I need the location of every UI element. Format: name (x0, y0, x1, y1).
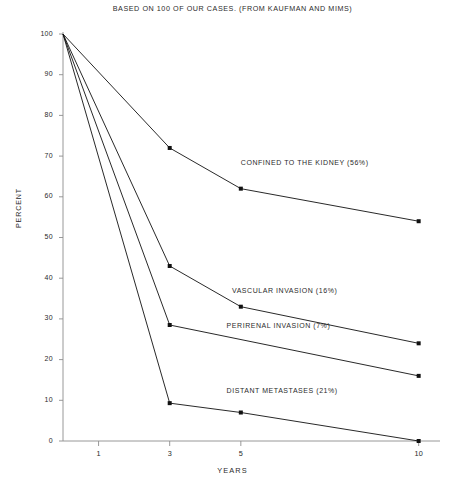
y-axis-tick-label: 80 (27, 111, 53, 118)
y-axis-tick-label: 40 (27, 274, 53, 281)
data-point-marker (168, 323, 172, 327)
y-axis-tick-label: 50 (27, 233, 53, 240)
series-label: PERIRENAL INVASION (7%) (227, 322, 331, 329)
x-axis-tick-label: 3 (159, 449, 181, 458)
data-point-marker (168, 264, 172, 268)
y-axis-tick-label: 20 (27, 355, 53, 362)
data-point-marker (239, 305, 243, 309)
series-label: VASCULAR INVASION (16%) (232, 287, 337, 294)
x-axis-tick-label: 5 (230, 449, 252, 458)
y-axis-tick-label: 0 (27, 437, 53, 444)
y-axis-tick-label: 100 (27, 30, 53, 37)
y-axis-tick-label: 60 (27, 192, 53, 199)
series-line (63, 34, 419, 441)
series-label: CONFINED TO THE KIDNEY (56%) (241, 159, 369, 166)
data-point-marker (239, 187, 243, 191)
survival-curve-figure: BASED ON 100 OF OUR CASES. (FROM KAUFMAN… (0, 0, 465, 500)
data-point-marker (239, 411, 243, 415)
y-axis-tick-label: 70 (27, 152, 53, 159)
series-label: DISTANT METASTASES (21%) (227, 387, 338, 394)
x-axis-tick-label: 10 (408, 449, 430, 458)
y-axis-tick-label: 90 (27, 70, 53, 77)
plot-area (0, 0, 465, 500)
data-point-marker (168, 146, 172, 150)
data-point-marker (417, 374, 421, 378)
y-axis-tick-label: 10 (27, 396, 53, 403)
data-point-marker (417, 439, 421, 443)
x-axis-tick-label: 1 (88, 449, 110, 458)
data-point-marker (417, 341, 421, 345)
series-line (63, 34, 419, 221)
data-point-marker (417, 219, 421, 223)
y-axis-tick-label: 30 (27, 314, 53, 321)
data-point-marker (168, 401, 172, 405)
